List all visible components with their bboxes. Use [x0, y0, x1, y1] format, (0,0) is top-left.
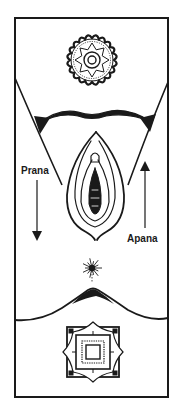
root-square-chakra-icon	[63, 322, 123, 382]
upper-left-wedge	[34, 116, 50, 134]
root-corner-mark	[69, 329, 74, 334]
lotus-center-dot	[88, 56, 96, 64]
root-corner-mark	[113, 371, 118, 376]
star-core	[89, 265, 95, 271]
upper-wavy-band	[38, 110, 152, 124]
crown-lotus-chakra-icon	[67, 35, 116, 84]
yoni-symbol-icon	[67, 132, 124, 240]
lotus-ring	[71, 39, 113, 81]
apana-arrow-up-icon	[140, 161, 150, 171]
root-corner-mark	[113, 329, 118, 334]
prana-arrow-down-icon	[32, 231, 42, 241]
lotus-inner-star	[75, 43, 109, 77]
lotus-center-ring	[84, 52, 100, 68]
lotus-dotted-ring	[74, 42, 111, 79]
root-corner-mark	[69, 371, 74, 376]
prana-label: Prana	[21, 165, 49, 176]
bindu-star-icon	[83, 258, 102, 282]
prana-apana-diagram: Prana Apana	[0, 0, 179, 415]
apana-label: Apana	[127, 233, 158, 244]
